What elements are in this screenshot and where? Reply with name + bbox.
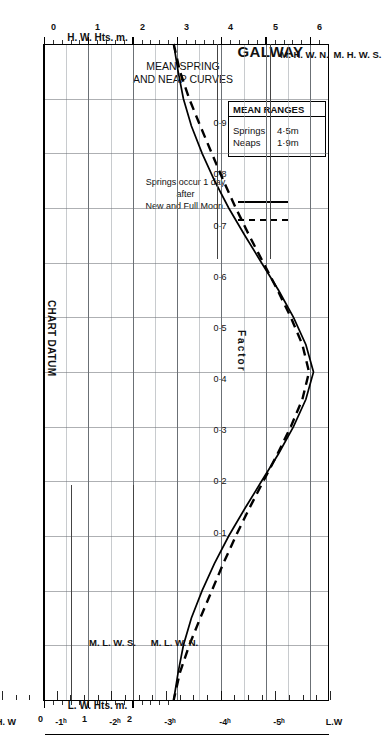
time-tick (316, 695, 317, 700)
hw-tick (265, 37, 266, 44)
hw-minor-tick (319, 40, 320, 44)
factor-label: 0·9 (210, 118, 230, 128)
marker-label: M. H. W. N. (259, 49, 351, 60)
hw-minor-tick (257, 40, 258, 44)
factor-label: 0·5 (210, 323, 230, 333)
time-tick (330, 691, 331, 700)
hw-minor-tick (284, 40, 285, 44)
time-label: -2ʰ (101, 717, 129, 727)
hw-minor-tick (275, 40, 276, 44)
lw-axis-title: L. W. Hts. m. (53, 700, 143, 711)
factor-label: 0·8 (210, 169, 230, 179)
chart-datum-label: CHART DATUM (46, 300, 57, 376)
time-tick (29, 695, 30, 700)
time-label: -4ʰ (211, 717, 239, 727)
lw-tick-label: 1 (82, 714, 100, 724)
time-tick (207, 695, 208, 700)
hw-minor-tick (195, 40, 196, 44)
time-label: -1ʰ (47, 717, 75, 727)
hw-minor-tick (213, 40, 214, 44)
hw-minor-tick (230, 40, 231, 44)
marker-line (270, 44, 271, 259)
hw-minor-tick (301, 40, 302, 44)
factor-label: 0·4 (210, 374, 230, 384)
marker-label: M. L. W. S. (66, 637, 158, 648)
time-tick (303, 695, 304, 700)
lw-tick (44, 701, 45, 708)
time-label: -3ʰ (156, 717, 184, 727)
hw-tick (44, 37, 45, 44)
time-tick (275, 691, 276, 700)
time-tick (2, 691, 3, 700)
lw-minor-tick (168, 701, 169, 705)
hw-tick (310, 37, 311, 44)
time-tick (180, 695, 181, 700)
time-label: L.W (320, 717, 348, 727)
hw-minor-tick (293, 40, 294, 44)
time-tick (221, 691, 222, 700)
lw-minor-tick (151, 701, 152, 705)
time-tick (43, 695, 44, 700)
hw-tick-label: 1 (82, 22, 100, 32)
marker-line (71, 485, 72, 700)
hw-tick (177, 37, 178, 44)
lw-minor-tick (159, 701, 160, 705)
factor-label: 0·7 (210, 221, 230, 231)
hw-minor-tick (159, 40, 160, 44)
time-tick (193, 695, 194, 700)
lw-tick-label: 2 (127, 714, 145, 724)
hw-minor-tick (204, 40, 205, 44)
time-tick (289, 695, 290, 700)
hw-minor-tick (239, 40, 240, 44)
hw-tick-label: 6 (304, 22, 322, 32)
hw-tick-label: 4 (216, 22, 234, 32)
hw-minor-tick (151, 40, 152, 44)
factor-label: 0·3 (210, 425, 230, 435)
factor-label: 0·1 (210, 528, 230, 538)
hw-tick-label: 5 (260, 22, 278, 32)
hw-tick-label: 0 (38, 22, 56, 32)
factor-label: 0·6 (210, 272, 230, 282)
factor-label: 0·2 (210, 476, 230, 486)
time-tick (234, 695, 235, 700)
hw-axis-title: H. W. Hts. m. (53, 32, 143, 43)
hw-minor-tick (186, 40, 187, 44)
hw-tick-label: 2 (127, 22, 145, 32)
time-tick (166, 691, 167, 700)
hw-tick-label: 3 (171, 22, 189, 32)
time-label: -5ʰ (265, 717, 293, 727)
time-tick (16, 695, 17, 700)
factor-title: Factor (236, 330, 247, 373)
marker-line (133, 485, 134, 700)
time-label: H. W (0, 717, 20, 727)
time-tick (248, 695, 249, 700)
hw-minor-tick (248, 40, 249, 44)
time-tick (262, 695, 263, 700)
time-tick (152, 695, 153, 700)
hw-tick (221, 37, 222, 44)
hw-minor-tick (168, 40, 169, 44)
